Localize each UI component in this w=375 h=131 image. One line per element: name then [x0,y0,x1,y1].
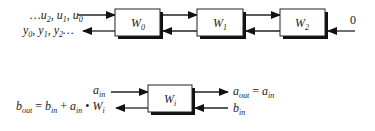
a-out-equation: aout = ain [233,84,274,100]
b-out-equation: bout = bin + ain • Wi [16,99,105,115]
boundary-zero-label: 0 [350,13,356,27]
output-sequence-label: y0, y1, y2… [22,23,74,39]
a-in-label: ain [93,83,105,99]
block-w1: W1 [197,9,246,39]
block-w0: W0 [115,9,163,39]
input-sequence-label: …u2, u1, u0 [30,8,83,24]
block-w2: W2 [280,9,328,39]
b-in-label: bin [233,101,245,117]
block-wi: Wi [148,85,195,115]
systolic-array-diagram: …u2, u1, u0 y0, y1, y2… 0 W0 W1 W2 ain b… [0,0,375,131]
